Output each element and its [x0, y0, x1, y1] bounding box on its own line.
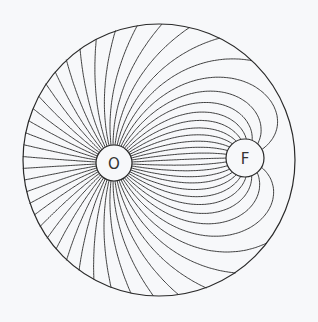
flow-line: [128, 128, 237, 153]
flow-line: [125, 112, 246, 150]
field-lines-diagram: O F: [0, 0, 318, 322]
flow-line: [129, 171, 237, 189]
flow-line: [129, 135, 233, 155]
flow-line: [47, 174, 101, 238]
flow-line: [130, 147, 228, 158]
sink-label: F: [241, 150, 250, 168]
source-node: O: [96, 145, 132, 181]
flow-line: [110, 180, 131, 294]
flow-line: [39, 96, 101, 153]
flow-line: [56, 176, 103, 249]
flow-line: [95, 39, 108, 147]
flow-line: [94, 179, 108, 280]
flow-line: [131, 162, 227, 165]
source-label: O: [108, 155, 120, 173]
flow-line: [79, 178, 106, 271]
flow-line: [66, 177, 104, 261]
flow-line: [131, 158, 226, 162]
flow-line: [119, 59, 252, 147]
sink-node: F: [226, 139, 264, 177]
flow-line: [23, 157, 97, 162]
flow-line: [131, 166, 228, 171]
flow-line: [46, 84, 102, 152]
flow-line: [124, 172, 260, 223]
